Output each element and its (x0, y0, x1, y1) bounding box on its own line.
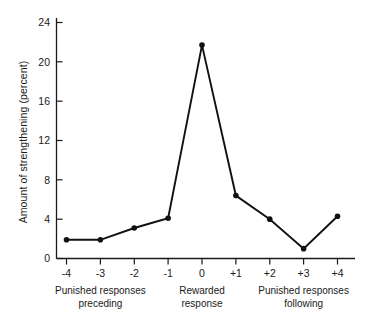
x-tick-label: -2 (130, 267, 139, 279)
group-label-punished-following-line2: following (284, 298, 323, 309)
data-point (301, 246, 307, 252)
group-label-rewarded-line2: response (181, 298, 223, 309)
y-tick-label: 12 (38, 134, 50, 146)
y-tick-label: 20 (38, 56, 50, 68)
y-tick-label: 0 (44, 252, 50, 264)
y-tick-label: 8 (44, 174, 50, 186)
data-point (165, 215, 171, 221)
chart-figure: Amount of strengthening (percent) 0 4 8 … (0, 0, 370, 315)
data-point (267, 216, 273, 222)
y-tick-label: 16 (38, 95, 50, 107)
group-label-punished-following-line1: Punished responses (258, 285, 349, 296)
x-axis-ticks (67, 259, 338, 265)
y-tick-label: 24 (38, 16, 50, 28)
group-label-rewarded-line1: Rewarded (179, 285, 225, 296)
x-tick-label: -3 (96, 267, 105, 279)
x-tick-label: +3 (298, 267, 310, 279)
x-axis-group-labels: Punished responses preceding Rewarded re… (55, 285, 349, 309)
data-point (199, 42, 205, 48)
x-tick-label: 0 (199, 267, 205, 279)
x-tick-label: +4 (332, 267, 344, 279)
data-point-markers (64, 42, 341, 251)
data-point (98, 237, 104, 243)
line-chart-plot: 0 4 8 12 16 20 24 -4 -3 -2 -1 0 + (0, 0, 370, 315)
data-point (335, 213, 341, 219)
x-axis-tick-labels: -4 -3 -2 -1 0 +1 +2 +3 +4 (62, 267, 344, 279)
y-axis-ticks (57, 23, 63, 259)
data-series-line (67, 45, 338, 249)
group-label-punished-preceding-line1: Punished responses (55, 285, 146, 296)
data-point (131, 225, 137, 231)
data-point (233, 193, 239, 199)
x-tick-label: -4 (62, 267, 71, 279)
y-axis-tick-labels: 0 4 8 12 16 20 24 (38, 16, 50, 264)
x-tick-label: +2 (264, 267, 276, 279)
x-tick-label: +1 (230, 267, 242, 279)
y-tick-label: 4 (44, 213, 50, 225)
group-label-punished-preceding-line2: preceding (78, 298, 122, 309)
data-point (64, 237, 70, 243)
x-tick-label: -1 (163, 267, 172, 279)
